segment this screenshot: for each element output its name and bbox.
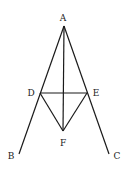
segment-df [40,93,63,131]
label-a: A [59,13,67,23]
geometry-diagram: A B C D E F [0,0,131,169]
label-c: C [114,151,121,161]
label-e: E [93,88,100,98]
segment-ab [19,26,64,154]
segment-ef [63,93,87,131]
diagram-svg: A B C D E F [0,0,131,169]
segment-af [63,26,64,131]
segment-ac [64,26,109,154]
label-b: B [8,151,15,161]
label-f: F [60,138,66,148]
label-d: D [27,88,34,98]
